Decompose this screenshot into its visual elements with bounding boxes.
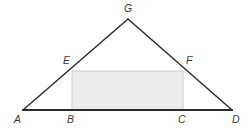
vertex-label-g: G bbox=[124, 2, 132, 14]
vertex-label-c: C bbox=[178, 113, 186, 125]
rectangle-BEFC bbox=[72, 71, 183, 110]
vertex-label-b: B bbox=[67, 113, 74, 125]
geometry-diagram: G E F A B C D bbox=[0, 0, 251, 130]
vertex-label-f: F bbox=[186, 54, 193, 66]
vertex-label-e: E bbox=[63, 54, 71, 66]
vertex-label-a: A bbox=[13, 113, 21, 125]
vertex-label-d: D bbox=[232, 113, 240, 125]
figure-svg: G E F A B C D bbox=[0, 0, 251, 130]
